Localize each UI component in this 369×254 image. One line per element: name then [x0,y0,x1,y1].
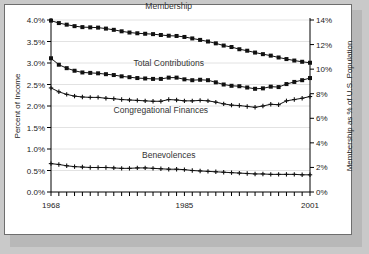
series-marker [261,86,265,90]
series-marker [198,38,202,42]
series-marker [277,85,281,89]
series-marker [127,98,131,102]
series-marker [292,80,296,84]
series-marker [73,69,77,73]
series-marker [284,172,288,176]
y-axis-left-tick-label: 0.5% [27,167,45,176]
x-axis-tick-label: 2001 [301,201,319,210]
series-marker [135,166,139,170]
series-marker [245,104,249,108]
y-axis-left-title: Percent of Income [13,73,22,138]
series-marker [143,76,147,80]
series-marker [198,169,202,173]
y-axis-right-tick-label: 10% [316,65,332,74]
series-marker [57,63,61,67]
series-marker [284,82,288,86]
series-marker [159,77,163,81]
series-marker [182,99,186,103]
series-marker [284,99,288,103]
series-marker [182,167,186,171]
series-marker [269,54,273,58]
series-marker [300,78,304,82]
series-marker [245,86,249,90]
series-marker [175,34,179,38]
series-marker [300,60,304,64]
series-marker [143,99,147,103]
series-marker [127,31,131,35]
series-marker [80,165,84,169]
series-marker [245,49,249,53]
series-marker [104,165,108,169]
series-marker [127,166,131,170]
y-axis-left-tick-label: 1.5% [27,124,45,133]
series-marker [230,84,234,88]
series-marker [292,172,296,176]
series-marker [64,92,68,96]
series-marker [57,90,61,94]
series-marker [269,85,273,89]
series-marker [237,103,241,107]
series-marker [151,77,155,81]
series-marker [104,72,108,76]
y-axis-left-tick-label: 4.0% [27,16,45,25]
series-marker [49,86,53,90]
series-marker [190,36,194,40]
series-marker [151,32,155,36]
series-marker [253,172,257,176]
series-marker [206,78,210,82]
series-marker [198,98,202,102]
series-marker [300,173,304,177]
series-marker [104,96,108,100]
series-marker [64,164,68,168]
series-marker [143,166,147,170]
y-axis-right-tick-label: 14% [316,16,332,25]
series-marker [182,77,186,81]
y-axis-left-tick-label: 2.5% [27,81,45,90]
series-marker [190,168,194,172]
series-marker [182,35,186,39]
y-axis-left-tick-label: 3.5% [27,38,45,47]
series-marker [65,66,69,70]
series-marker [96,95,100,99]
y-axis-right-tick-label: 12% [316,41,332,50]
y-axis-right-tick-label: 6% [316,114,328,123]
series-label-0: Membership [145,1,192,11]
series-marker [96,71,100,75]
series-marker [261,172,265,176]
series-marker [276,172,280,176]
series-marker [120,29,124,33]
series-marker [159,99,163,103]
series-marker [88,71,92,75]
series-marker [308,61,312,65]
series-marker [112,73,116,77]
series-marker [253,51,257,55]
series-label-3: Benevolences [142,150,195,160]
series-marker [229,103,233,107]
series-marker [222,44,226,48]
series-marker [96,26,100,30]
series-marker [88,165,92,169]
series-marker [198,78,202,82]
series-marker [206,40,210,44]
series-marker [237,171,241,175]
series-marker [65,23,69,27]
series-marker [88,95,92,99]
series-marker [292,97,296,101]
series-marker [308,94,312,98]
series-marker [88,25,92,29]
series-marker [57,21,61,25]
series-marker [112,96,116,100]
y-axis-left-tick-label: 0.0% [27,188,45,197]
y-axis-left-tick-label: 1.0% [27,145,45,154]
series-marker [57,162,61,166]
series-marker [73,24,77,28]
series-marker [229,170,233,174]
series-marker [167,97,171,101]
chart-plot-area: 0.0%0.5%1.0%1.5%2.0%2.5%3.0%3.5%4.0%0%2%… [0,0,369,254]
series-marker [135,98,139,102]
series-marker [206,99,210,103]
series-marker [135,76,139,80]
chart-screenshot: 0.0%0.5%1.0%1.5%2.0%2.5%3.0%3.5%4.0%0%2%… [0,0,369,254]
series-marker [269,172,273,176]
series-marker [167,34,171,38]
